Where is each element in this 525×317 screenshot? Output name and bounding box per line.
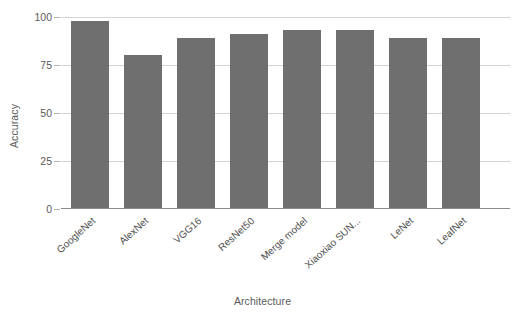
- y-tick-label-100: 100: [16, 12, 52, 23]
- y-tick-mark-75: [54, 65, 60, 66]
- y-axis-tick-labels: 100 75 50 25 0: [14, 17, 52, 209]
- x-tick-label-alexnet: AlexNet: [91, 215, 150, 270]
- y-tick-mark-0: [54, 209, 60, 210]
- x-tick-label-resnet50: ResNet50: [197, 215, 256, 270]
- x-tick-label-vgg16: VGG16: [144, 215, 203, 270]
- x-tick-label-googlenet: GoogleNet: [38, 215, 97, 270]
- bar-vgg16: [177, 38, 215, 208]
- plot-area: [61, 17, 510, 209]
- x-tick-label-leafnet: LeafNet: [409, 215, 468, 270]
- bar-chart: Accuracy 100 75 50 25 0 GoogleNet AlexNe…: [0, 0, 525, 317]
- bar-xiaoxiao-sun: [336, 30, 374, 208]
- gridline-100: [61, 17, 510, 18]
- y-tick-label-50: 50: [16, 108, 52, 119]
- y-tick-mark-100: [54, 17, 60, 18]
- y-tick-label-0: 0: [16, 204, 52, 215]
- bar-merge-model: [283, 30, 321, 208]
- bar-resnet50: [230, 34, 268, 208]
- x-axis-tick-labels: GoogleNet AlexNet VGG16 ResNet50 Merge m…: [61, 209, 510, 289]
- bar-googlenet: [71, 21, 109, 208]
- bar-alexnet: [124, 55, 162, 208]
- x-tick-label-lenet: LeNet: [356, 215, 415, 270]
- bar-lenet: [389, 38, 427, 208]
- y-tick-mark-50: [54, 113, 60, 114]
- x-axis-title: Architecture: [0, 295, 525, 307]
- y-tick-mark-25: [54, 161, 60, 162]
- bar-leafnet: [442, 38, 480, 208]
- y-tick-label-25: 25: [16, 156, 52, 167]
- y-tick-label-75: 75: [16, 60, 52, 71]
